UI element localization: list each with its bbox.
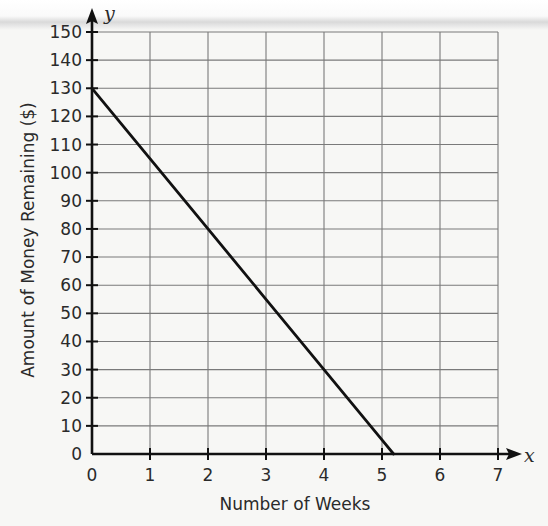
y-axis-variable: y xyxy=(103,2,115,24)
line-chart: 0102030405060708090100110120130140150 01… xyxy=(0,0,548,526)
y-tick-label: 70 xyxy=(60,247,82,267)
x-axis-variable: x xyxy=(524,444,535,466)
y-tick-label: 140 xyxy=(50,50,82,70)
y-tick-label: 100 xyxy=(50,163,82,183)
y-tick-label: 50 xyxy=(60,303,82,323)
y-tick-label: 10 xyxy=(60,416,82,436)
y-tick-label: 0 xyxy=(71,444,82,464)
x-tick-label: 3 xyxy=(261,465,272,485)
data-series xyxy=(92,88,394,454)
y-tick-label: 40 xyxy=(60,331,82,351)
grid-lines xyxy=(92,32,498,454)
x-tick-label: 6 xyxy=(435,465,446,485)
y-tick-label: 150 xyxy=(50,22,82,42)
y-tick-label: 120 xyxy=(50,106,82,126)
x-axis-tick-labels: 01234567 xyxy=(87,465,504,485)
y-axis-tick-labels: 0102030405060708090100110120130140150 xyxy=(50,22,82,464)
y-tick-label: 90 xyxy=(60,191,82,211)
y-tick-label: 130 xyxy=(50,78,82,98)
x-tick-label: 1 xyxy=(145,465,156,485)
x-tick-label: 2 xyxy=(203,465,214,485)
axes xyxy=(86,8,522,460)
x-tick-label: 4 xyxy=(319,465,330,485)
y-tick-label: 110 xyxy=(50,135,82,155)
x-tick-label: 0 xyxy=(87,465,98,485)
y-tick-label: 60 xyxy=(60,275,82,295)
y-tick-label: 80 xyxy=(60,219,82,239)
x-tick-label: 7 xyxy=(493,465,504,485)
money-remaining-line xyxy=(92,88,394,454)
x-tick-label: 5 xyxy=(377,465,388,485)
y-tick-label: 20 xyxy=(60,388,82,408)
y-axis-title: Amount of Money Remaining ($) xyxy=(18,102,38,378)
x-axis-title: Number of Weeks xyxy=(220,494,371,514)
y-tick-label: 30 xyxy=(60,360,82,380)
